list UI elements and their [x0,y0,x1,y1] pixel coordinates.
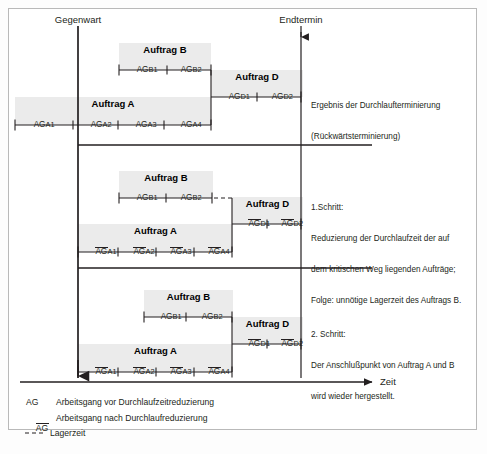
annotation-block-3: 2. Schritt: Der Anschlußpunkt von Auftra… [311,309,476,423]
op-suffix: D2 [284,92,293,101]
annotation-block-1: Ergebnis der Durchlaufterminierung (Rück… [311,80,471,163]
diagram-root: Gegenwart Endtermin Zeit Auftrag B AGB1 … [0,0,487,454]
op-prefix: AG [34,120,46,129]
op-label-b1-block2: AGB1 [128,184,158,211]
legend-text-lagerzeit: Lagerzeit [50,428,85,438]
legend-key-ag-reduced: AG [26,413,49,443]
op-label-a1-block1: AGA1 [25,111,55,138]
op-prefix: AG [136,120,148,129]
marker-label-gegenwart: Gegenwart [55,14,101,25]
annotation-line: Der Anschlußpunkt von Auftrag A und B [311,361,476,371]
op-label-a1-block2: AGA1 [86,238,117,266]
op-label-d2-block3: AGD2 [272,330,303,358]
op-suffix: A3 [183,367,192,376]
op-prefix: AG [181,65,193,74]
op-prefix-reduced: AG [133,247,145,257]
op-suffix: D1 [261,339,270,348]
op-prefix-reduced: AG [95,247,107,257]
op-label-a2-block1: AGA2 [82,111,112,138]
op-prefix: AG [181,120,193,129]
op-prefix: AG [229,92,241,101]
op-suffix: B1 [149,193,158,202]
op-suffix: A2 [146,247,155,256]
op-suffix: A4 [193,120,202,129]
order-title-a-block3: Auftrag A [78,345,233,356]
op-prefix: AG [202,312,214,321]
annotation-line: 1.Schritt: [311,203,476,213]
op-prefix: AG [137,65,149,74]
op-label-a2-block3: AGA2 [124,358,155,386]
annotation-line: Reduzierung der Durchlaufzeit der auf [311,234,476,244]
op-suffix: D2 [294,219,303,228]
op-suffix: A4 [221,367,230,376]
annotation-block-2: 1.Schritt: Reduzierung der Durchlaufzeit… [311,182,476,328]
op-suffix: A1 [108,367,117,376]
op-prefix-reduced: AG [170,247,182,257]
op-label-a3-block1: AGA3 [127,111,157,138]
order-title-a-block1: Auftrag A [15,98,211,109]
op-prefix-reduced: AG [248,219,260,229]
order-title-d-block1: Auftrag D [211,71,303,82]
op-label-d2-block2: AGD2 [272,210,303,238]
op-label-d1-block3: AGD1 [239,330,270,358]
op-suffix: B2 [193,193,202,202]
op-suffix: A3 [148,120,157,129]
op-label-a1-block3: AGA1 [86,358,117,386]
order-title-d-block2: Auftrag D [232,198,303,209]
op-label-d1-block2: AGD1 [239,210,270,238]
op-suffix: A1 [46,120,55,129]
op-prefix-reduced: AG [281,339,293,349]
op-label-d2-block1: AGD2 [263,83,293,110]
op-prefix: AG [137,193,149,202]
op-prefix: AG [181,193,193,202]
annotation-line: Folge: unnötige Lagerzeit des Auftrags B… [311,296,476,306]
op-label-b2-block1: AGB2 [172,56,202,83]
op-label-a4-block1: AGA4 [172,111,202,138]
order-title-b-block1: Auftrag B [119,44,211,55]
annotation-line: wird wieder hergestellt. [311,392,476,402]
op-suffix: B1 [173,312,182,321]
op-prefix-reduced: AG [170,367,182,377]
op-label-b2-block2: AGB2 [172,184,202,211]
op-label-a4-block2: AGA4 [199,238,230,266]
op-label-a2-block2: AGA2 [124,238,155,266]
op-suffix: D2 [294,339,303,348]
op-suffix: D1 [241,92,250,101]
marker-label-endtermin: Endtermin [279,14,322,25]
op-label-b2-block3: AGB2 [193,303,223,330]
op-prefix-reduced: AG [281,219,293,229]
annotation-line: 2. Schritt: [311,330,476,340]
annotation-line: (Rückwärtsterminierung) [311,132,471,142]
op-label-a3-block3: AGA3 [161,358,192,386]
op-prefix-reduced: AG [133,367,145,377]
op-suffix: D1 [261,219,270,228]
order-title-b-block2: Auftrag B [119,172,213,183]
op-suffix: B2 [214,312,223,321]
op-suffix: A1 [108,247,117,256]
op-prefix-reduced: AG [248,339,260,349]
op-suffix: B2 [193,65,202,74]
op-prefix-reduced: AG [208,367,220,377]
op-suffix: A2 [103,120,112,129]
legend-text-ag: Arbeitsgang vor Durchlaufzeitreduzierung [56,397,214,407]
annotation-line: dem kritischen Weg liegenden Aufträge; [311,265,476,275]
op-suffix: A2 [146,367,155,376]
legend-key-ag: AG [26,397,38,407]
op-label-d1-block1: AGD1 [220,83,250,110]
op-prefix: AG [272,92,284,101]
op-label-a3-block2: AGA3 [161,238,192,266]
op-suffix: B1 [149,65,158,74]
op-prefix-reduced: AG [95,367,107,377]
op-label-a4-block3: AGA4 [199,358,230,386]
order-title-d-block3: Auftrag D [232,318,303,329]
order-title-b-block3: Auftrag B [144,291,233,302]
order-title-a-block2: Auftrag A [78,225,233,236]
annotation-line: Ergebnis der Durchlaufterminierung [311,101,471,111]
legend-text-ag-reduced: Arbeitsgang nach Durchlaufreduzierung [56,413,207,423]
op-suffix: A4 [221,247,230,256]
op-label-b1-block1: AGB1 [128,56,158,83]
legend-key-overline: AG [36,423,49,433]
op-prefix-reduced: AG [208,247,220,257]
op-label-b1-block3: AGB1 [152,303,182,330]
op-suffix: A3 [183,247,192,256]
